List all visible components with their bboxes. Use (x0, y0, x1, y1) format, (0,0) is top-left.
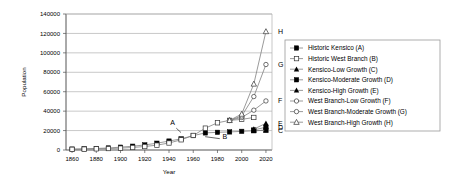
tick-label-x-1960: 1960 (187, 156, 201, 162)
data-point-marker (227, 130, 231, 134)
data-point-marker (251, 81, 256, 86)
legend-item-label: Kensico-Moderate Growth (D) (308, 76, 393, 84)
tick-label-x-1860: 1860 (65, 156, 79, 162)
endpoint-label-G: G (278, 61, 283, 68)
annotation-label-B: B (222, 133, 227, 140)
data-point-marker (191, 133, 195, 137)
legend-item-label: West Branch-Moderate Growth (G) (308, 108, 407, 116)
data-point-marker (252, 108, 256, 112)
series-line-G (230, 65, 266, 121)
data-point-marker (294, 56, 298, 60)
x-axis-title: Year (163, 168, 176, 175)
endpoint-label-C: C (278, 127, 283, 134)
y-axis-title: Population (20, 67, 27, 97)
tick-label-y-0: 0 (57, 147, 61, 153)
series-H (227, 29, 269, 123)
data-point-marker (264, 99, 268, 103)
tick-label-x-2020: 2020 (259, 156, 273, 162)
tick-label-y-100000: 100000 (40, 50, 61, 56)
data-point-marker (252, 94, 256, 98)
data-point-marker (294, 78, 298, 82)
tick-label-x-1980: 1980 (211, 156, 225, 162)
data-point-marker (252, 115, 256, 119)
tick-label-y-120000: 120000 (40, 31, 61, 37)
tick-label-x-1920: 1920 (138, 156, 152, 162)
data-point-marker (155, 143, 159, 147)
data-point-marker (118, 146, 122, 150)
data-point-marker (263, 29, 268, 34)
tick-label-y-40000: 40000 (43, 108, 60, 114)
data-point-marker (294, 109, 298, 113)
data-point-marker (215, 121, 219, 125)
data-point-marker (106, 146, 110, 150)
legend-item-label: Historic Kensico (A) (308, 44, 364, 52)
endpoint-label-F: F (278, 97, 282, 104)
chart-canvas: 0200004000060000800001000001200001400001… (0, 0, 456, 184)
data-point-marker (130, 145, 134, 149)
tick-label-y-140000: 140000 (40, 11, 61, 17)
data-point-marker (239, 111, 244, 116)
data-point-marker (82, 147, 86, 151)
legend-box (285, 40, 440, 131)
legend-item-label: West Branch-High Growth (H) (308, 119, 393, 127)
data-point-marker (94, 147, 98, 151)
legend-item-label: Historic West Branch (B) (308, 55, 378, 63)
data-point-marker (143, 144, 147, 148)
data-point-marker (294, 46, 298, 50)
data-point-marker (203, 131, 207, 135)
data-point-marker (70, 147, 74, 151)
tick-label-x-1900: 1900 (114, 156, 128, 162)
tick-label-y-80000: 80000 (43, 69, 60, 75)
data-point-marker (263, 120, 268, 125)
data-point-marker (240, 129, 244, 133)
data-point-marker (264, 62, 268, 66)
data-point-marker (294, 99, 298, 103)
endpoint-label-H: H (278, 28, 283, 35)
data-point-marker (203, 126, 207, 130)
tick-label-x-1880: 1880 (90, 156, 104, 162)
data-point-marker (215, 130, 219, 134)
annotation-label-A: A (170, 119, 175, 126)
tick-label-y-60000: 60000 (43, 89, 60, 95)
legend-item-label: West Branch-Low Growth (F) (308, 97, 391, 105)
data-point-marker (167, 141, 171, 145)
tick-label-x-2000: 2000 (235, 156, 249, 162)
series-A (70, 128, 268, 151)
legend-item-G[interactable]: West Branch-Moderate Growth (G) (290, 108, 407, 116)
data-point-marker (264, 125, 268, 129)
annotation-leader-B (205, 137, 220, 139)
legend-item-label: Kensico-High Growth (E) (308, 87, 379, 95)
legend-item-label: Kensico-Low Growth (C) (308, 66, 378, 74)
data-point-marker (179, 138, 183, 142)
tick-label-x-1940: 1940 (162, 156, 176, 162)
population-projection-chart: 0200004000060000800001000001200001400001… (0, 0, 456, 184)
tick-label-y-20000: 20000 (43, 128, 60, 134)
